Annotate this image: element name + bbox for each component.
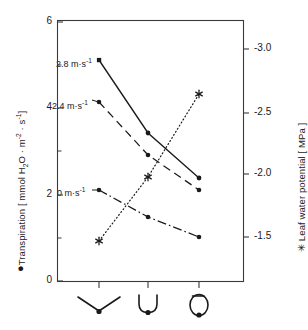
right-axis-ticks xyxy=(244,49,250,237)
x-axis-ticks xyxy=(99,282,199,289)
data-point-marker xyxy=(97,100,102,105)
leaf-shape-u-icon xyxy=(139,295,157,315)
series-2-8-ms-markers xyxy=(97,58,202,181)
chart-figure: ●Transpiration [ mmol H2O · m-2 · s-1] ✳… xyxy=(0,0,308,330)
leaf-shape-o-icon xyxy=(190,295,208,318)
data-point-marker xyxy=(146,215,151,220)
series-2-4-ms-markers xyxy=(97,100,202,193)
data-point-marker xyxy=(97,58,101,62)
asterisk-marker-icon xyxy=(196,90,203,98)
data-point-marker xyxy=(197,176,202,181)
leaf-shape-v-icon xyxy=(78,297,120,314)
data-point-marker xyxy=(97,188,102,193)
data-point-marker xyxy=(197,188,202,193)
series-0-ms xyxy=(92,188,201,240)
axis-frame xyxy=(58,21,244,282)
data-point-marker xyxy=(146,131,151,136)
data-point-marker xyxy=(197,235,202,240)
plot-area xyxy=(0,0,308,330)
series-2-4-ms-leader xyxy=(92,100,97,102)
left-axis-minor-ticks xyxy=(58,65,62,238)
x-axis-category-icons xyxy=(78,295,208,318)
series-2-8-ms xyxy=(97,58,202,181)
series-0-ms-line xyxy=(99,190,199,237)
data-point-marker xyxy=(146,153,151,158)
